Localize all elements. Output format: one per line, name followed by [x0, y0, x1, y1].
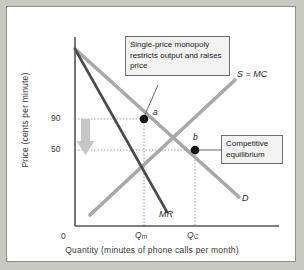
label-point-a: a: [153, 107, 158, 117]
supply-mc-curve: [90, 80, 235, 215]
label-supply-mc: S = MC: [237, 69, 267, 79]
y-tick-50: 50: [51, 144, 60, 154]
label-demand: D: [242, 193, 249, 203]
x-axis-title: Quantity (minutes of phone calls per mon…: [7, 245, 297, 255]
label-point-b: b: [193, 132, 198, 142]
y-axis-title: Price (cents per minute): [20, 50, 30, 190]
x-tick-qc: QC: [187, 230, 198, 240]
y-tick-90: 90: [51, 113, 60, 123]
x-tick-qm: Qm: [135, 230, 147, 240]
point-a-monopoly: [140, 115, 149, 124]
figure-frame: Price (cents per minute) Quantity (minut…: [6, 6, 296, 262]
callout-competitive: Competitive equilibrium: [221, 135, 283, 164]
origin-label: 0: [61, 231, 66, 241]
point-b-competitive: [191, 146, 200, 155]
label-marginal-revenue: MR: [159, 209, 173, 219]
callout-monopoly: Single-price monopoly restricts output a…: [125, 36, 230, 76]
